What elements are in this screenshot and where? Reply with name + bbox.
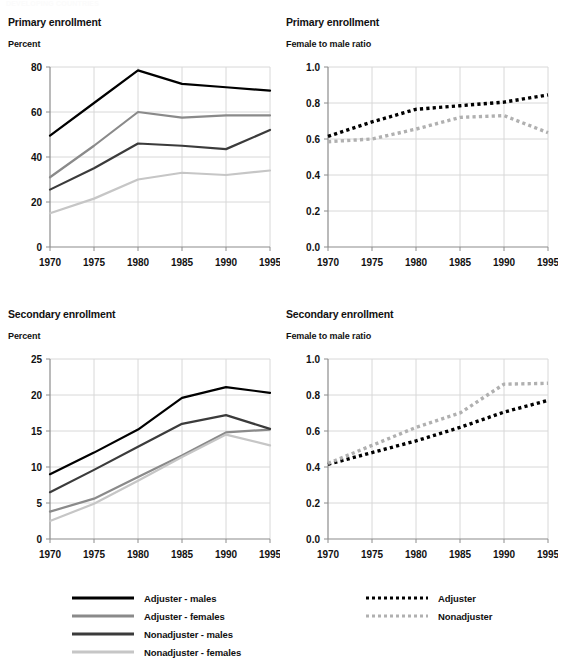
legend-label: Adjuster (438, 593, 476, 604)
y-axis-tick-label: 0 (36, 534, 42, 545)
y-axis-tick-label: 0.8 (306, 98, 320, 109)
panel-subtitle: Percent (8, 39, 280, 49)
panel-title: Secondary enrollment (286, 308, 558, 320)
legend-percent-item[interactable]: Nonadjuster - males (72, 625, 241, 643)
x-axis-tick-label: 1990 (493, 549, 516, 560)
chart-svg-primary-ratio: 0.00.20.40.60.81.01970197519801985199019… (286, 59, 558, 281)
plot-area-primary-percent: 020406080197019751980198519901995 (8, 59, 280, 281)
x-axis-tick-label: 1995 (259, 257, 280, 268)
legend-percent-item[interactable]: Adjuster - females (72, 607, 241, 625)
series-line (50, 430, 270, 512)
y-axis-tick-label: 1.0 (306, 62, 320, 73)
legend-ratio-charts: AdjusterNonadjuster (366, 589, 492, 625)
series-line (50, 415, 270, 492)
y-axis-tick-label: 0.2 (306, 206, 320, 217)
panel-primary-percent: Primary enrollment Percent 0204060801970… (8, 16, 280, 281)
x-axis-tick-label: 1970 (39, 257, 62, 268)
legend-ratio-item[interactable]: Nonadjuster (366, 607, 492, 625)
x-axis-tick-label: 1975 (83, 549, 106, 560)
series-line (50, 130, 270, 190)
chart-svg-secondary-ratio: 0.00.20.40.60.81.01970197519801985199019… (286, 351, 558, 573)
cropped-header-fragment: DEVELOPING COUNTRIES (6, 0, 99, 7)
panel-primary-ratio: Primary enrollment Female to male ratio … (286, 16, 558, 281)
panel-subtitle: Percent (8, 331, 280, 341)
x-axis-tick-label: 1995 (537, 257, 558, 268)
legend-swatch-solid-icon (72, 591, 134, 605)
legend-swatch-solid-icon (72, 609, 134, 623)
legend-ratio-item[interactable]: Adjuster (366, 589, 492, 607)
legend-label: Adjuster - males (144, 593, 216, 604)
x-axis-tick-label: 1995 (259, 549, 280, 560)
series-line (50, 435, 270, 521)
series-line (50, 171, 270, 214)
legend-label: Nonadjuster (438, 611, 492, 622)
legend-label: Adjuster - females (144, 611, 225, 622)
y-axis-tick-label: 20 (31, 390, 43, 401)
panel-title: Primary enrollment (8, 16, 280, 28)
x-axis-tick-label: 1995 (537, 549, 558, 560)
x-axis-tick-label: 1990 (215, 549, 238, 560)
x-axis-tick-label: 1970 (317, 549, 340, 560)
panel-secondary-percent: Secondary enrollment Percent 05101520251… (8, 308, 280, 573)
x-axis-tick-label: 1975 (83, 257, 106, 268)
chart-svg-secondary-percent: 0510152025197019751980198519901995 (8, 351, 280, 573)
y-axis-tick-label: 80 (31, 62, 43, 73)
x-axis-tick-label: 1975 (361, 257, 384, 268)
y-axis-tick-label: 20 (31, 197, 43, 208)
panel-secondary-ratio: Secondary enrollment Female to male rati… (286, 308, 558, 573)
legend-swatch-solid-icon (72, 645, 134, 659)
series-line (328, 95, 548, 136)
panel-title: Secondary enrollment (8, 308, 280, 320)
y-axis-tick-label: 0 (36, 242, 42, 253)
y-axis-tick-label: 0.0 (306, 534, 320, 545)
x-axis-tick-label: 1990 (493, 257, 516, 268)
legend-percent-charts: Adjuster - malesAdjuster - femalesNonadj… (72, 589, 241, 659)
legend-percent-item[interactable]: Adjuster - males (72, 589, 241, 607)
x-axis-tick-label: 1985 (449, 257, 472, 268)
y-axis-tick-label: 15 (31, 426, 43, 437)
x-axis-tick-label: 1980 (127, 549, 150, 560)
x-axis-tick-label: 1985 (171, 257, 194, 268)
legend-swatch-dotted-icon (366, 591, 428, 605)
x-axis-tick-label: 1970 (39, 549, 62, 560)
y-axis-tick-label: 60 (31, 107, 43, 118)
panel-subtitle: Female to male ratio (286, 39, 558, 49)
series-line (328, 116, 548, 142)
legend-label: Nonadjuster - females (144, 647, 241, 658)
chart-svg-primary-percent: 020406080197019751980198519901995 (8, 59, 280, 281)
legend-swatch-dotted-icon (366, 609, 428, 623)
legend-swatch-solid-icon (72, 627, 134, 641)
x-axis-tick-label: 1980 (405, 549, 428, 560)
y-axis-tick-label: 10 (31, 462, 43, 473)
x-axis-tick-label: 1990 (215, 257, 238, 268)
x-axis-tick-label: 1985 (449, 549, 472, 560)
panel-title: Primary enrollment (286, 16, 558, 28)
y-axis-tick-label: 0.0 (306, 242, 320, 253)
x-axis-tick-label: 1985 (171, 549, 194, 560)
x-axis-tick-label: 1970 (317, 257, 340, 268)
series-line (50, 70, 270, 135)
plot-area-secondary-percent: 0510152025197019751980198519901995 (8, 351, 280, 573)
y-axis-tick-label: 0.6 (306, 426, 320, 437)
y-axis-tick-label: 0.4 (306, 170, 320, 181)
plot-area-primary-ratio: 0.00.20.40.60.81.01970197519801985199019… (286, 59, 558, 281)
y-axis-tick-label: 0.4 (306, 462, 320, 473)
series-line (328, 400, 548, 464)
figure-page: DEVELOPING COUNTRIES Primary enrollment … (0, 0, 563, 659)
y-axis-tick-label: 0.6 (306, 134, 320, 145)
x-axis-tick-label: 1980 (127, 257, 150, 268)
y-axis-tick-label: 5 (36, 498, 42, 509)
y-axis-tick-label: 40 (31, 152, 43, 163)
legend-percent-item[interactable]: Nonadjuster - females (72, 643, 241, 659)
y-axis-tick-label: 0.2 (306, 498, 320, 509)
legend-label: Nonadjuster - males (144, 629, 233, 640)
x-axis-tick-label: 1980 (405, 257, 428, 268)
plot-area-secondary-ratio: 0.00.20.40.60.81.01970197519801985199019… (286, 351, 558, 573)
y-axis-tick-label: 0.8 (306, 390, 320, 401)
y-axis-tick-label: 25 (31, 354, 43, 365)
y-axis-tick-label: 1.0 (306, 354, 320, 365)
x-axis-tick-label: 1975 (361, 549, 384, 560)
panel-subtitle: Female to male ratio (286, 331, 558, 341)
